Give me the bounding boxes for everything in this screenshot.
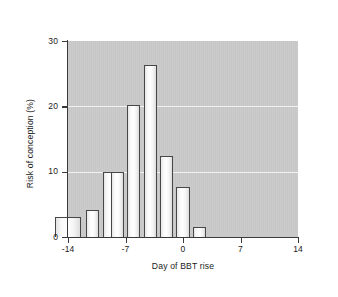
y-axis-tick: [62, 106, 67, 107]
x-axis-tick-label: 14: [278, 245, 318, 254]
y-axis-tick-label: 0: [18, 233, 58, 242]
bar: [111, 172, 124, 237]
x-axis-tick: [126, 238, 127, 243]
x-axis-tick: [241, 238, 242, 243]
bar: [176, 187, 189, 237]
bar: [144, 65, 157, 237]
x-axis-tick-label: -7: [106, 245, 146, 254]
plot-area: [68, 41, 298, 237]
bar: [160, 156, 173, 237]
bar: [86, 210, 99, 237]
y-axis-tick: [62, 172, 67, 173]
y-axis-tick-label: 30: [18, 37, 58, 46]
x-axis-tick-label: 7: [221, 245, 261, 254]
gridline: [68, 106, 298, 107]
chart-figure: 0102030 -14-70714 Risk of conception (%)…: [0, 0, 338, 297]
x-axis-tick: [298, 238, 299, 243]
x-axis-title: Day of BBT rise: [68, 262, 298, 271]
bar: [193, 227, 206, 237]
x-axis-tick: [183, 238, 184, 243]
bar: [127, 105, 140, 237]
y-axis-title: Risk of conception (%): [26, 54, 35, 234]
y-axis-tick: [62, 237, 67, 238]
x-axis-tick-label: 0: [163, 245, 203, 254]
y-axis-tick: [62, 41, 67, 42]
x-axis-tick: [68, 238, 69, 243]
x-axis-tick-label: -14: [48, 245, 88, 254]
y-axis-line: [67, 40, 68, 238]
